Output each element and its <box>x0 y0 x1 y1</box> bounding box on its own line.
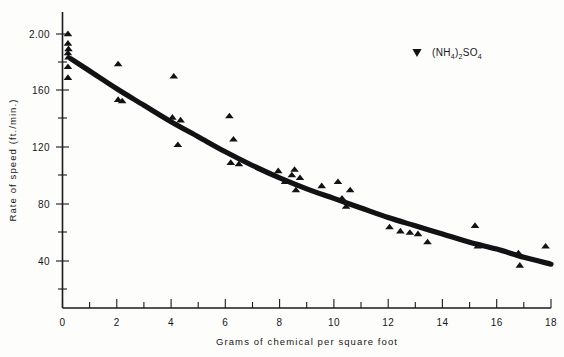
legend-label: (NH4)2SO4 <box>432 47 482 60</box>
y-tick-label: 160 <box>32 85 50 96</box>
x-tick-label: 4 <box>168 317 174 328</box>
y-tick-label: 40 <box>38 256 50 267</box>
x-tick-label: 6 <box>222 317 228 328</box>
x-tick-label: 2 <box>114 317 120 328</box>
data-point-marker <box>64 63 73 69</box>
data-point-marker <box>64 74 73 80</box>
x-axis-tick-labels: 0 2 4 6 8 10 12 14 16 18 <box>60 317 557 328</box>
data-point-marker <box>515 262 524 268</box>
x-tick-label: 0 <box>60 317 66 328</box>
data-point-marker <box>346 187 355 193</box>
data-point-marker <box>169 73 178 79</box>
data-point-marker <box>274 168 283 174</box>
trend-line <box>71 59 551 265</box>
data-point-marker <box>168 114 177 120</box>
data-point-marker <box>414 231 423 237</box>
chart-figure: 2.00 160 120 80 40 <box>0 0 564 357</box>
legend-formula-open: (NH <box>432 47 451 58</box>
y-axis-title: Rate of speed (ft./min.) <box>7 98 18 221</box>
y-axis-tick-labels: 2.00 160 120 80 40 <box>29 29 50 267</box>
legend: (NH4)2SO4 <box>412 47 482 60</box>
data-point-marker <box>385 224 394 230</box>
y-tick-label: 80 <box>38 199 50 210</box>
data-point-marker <box>423 239 432 245</box>
x-tick-label: 14 <box>436 317 448 328</box>
data-points <box>64 31 550 268</box>
data-point-marker <box>174 142 183 148</box>
trend-line-path <box>71 59 551 265</box>
legend-formula-tail: SO <box>463 47 478 58</box>
data-point-marker <box>334 178 343 184</box>
x-tick-label: 12 <box>382 317 394 328</box>
data-point-marker <box>406 229 415 235</box>
x-tick-label: 16 <box>491 317 503 328</box>
data-point-marker <box>225 113 234 119</box>
data-point-marker <box>114 61 123 67</box>
scatter-plot: 2.00 160 120 80 40 <box>0 0 564 357</box>
x-tick-label: 8 <box>277 317 283 328</box>
data-point-marker <box>64 40 73 46</box>
y-tick-label: 2.00 <box>29 29 50 40</box>
x-axis-minor-ticks <box>90 302 524 308</box>
x-tick-label: 10 <box>328 317 340 328</box>
x-axis-title: Grams of chemical per square foot <box>216 336 398 347</box>
data-point-marker <box>229 136 238 142</box>
data-point-marker <box>226 159 235 165</box>
data-point-marker <box>541 243 550 249</box>
data-point-marker <box>290 166 299 172</box>
legend-formula-sub3: 4 <box>478 53 482 60</box>
y-tick-label: 120 <box>32 142 50 153</box>
data-point-marker <box>471 222 480 228</box>
data-point-marker <box>317 183 326 189</box>
data-point-marker <box>296 174 305 180</box>
x-tick-label: 18 <box>545 317 557 328</box>
data-point-marker <box>64 31 73 37</box>
data-point-marker <box>288 172 297 178</box>
data-point-marker <box>396 228 405 234</box>
legend-triangle-marker <box>412 49 421 57</box>
data-point-marker <box>176 117 185 123</box>
data-point-marker <box>64 46 73 52</box>
